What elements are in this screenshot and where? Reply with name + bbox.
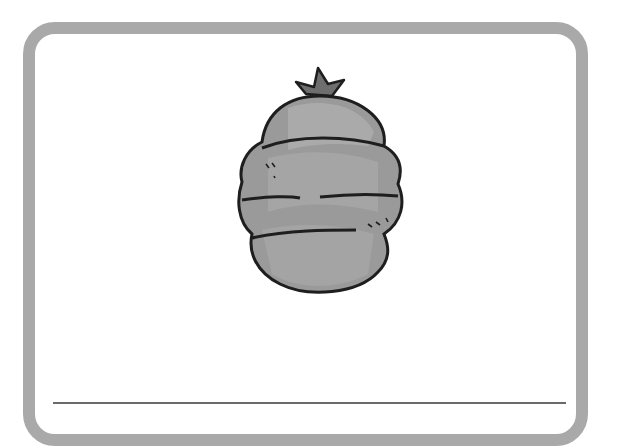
garbage-bag-icon [228, 62, 418, 298]
answer-label [53, 380, 566, 400]
answer-writing-line [53, 402, 566, 404]
